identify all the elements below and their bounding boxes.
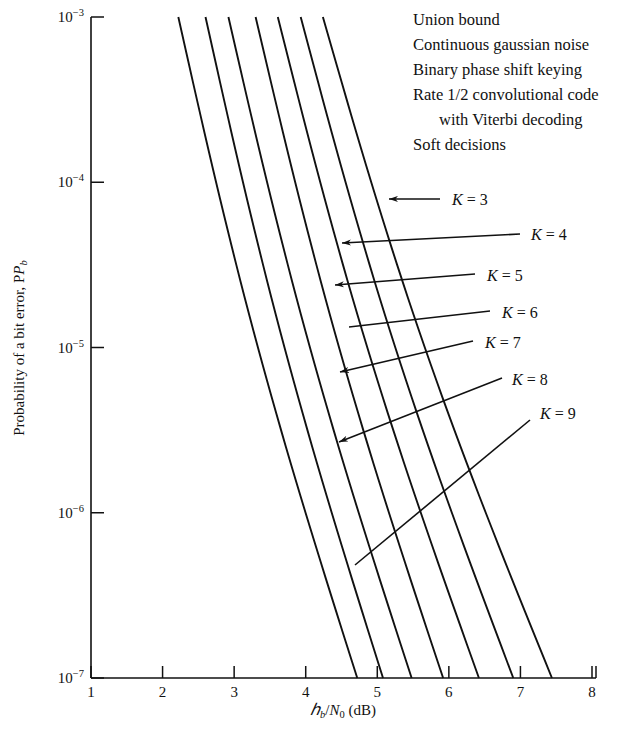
note-line-2: Continuous gaussian noise bbox=[413, 35, 589, 54]
x-tick-label: 3 bbox=[230, 684, 238, 700]
note-line-6: Soft decisions bbox=[413, 135, 506, 154]
leader-line-8 bbox=[339, 378, 502, 442]
svg-text:ℎb/N0 (dB): ℎb/N0 (dB) bbox=[310, 701, 376, 720]
y-tick-label: 10−7 bbox=[58, 668, 84, 686]
k-label-5: K = 5 bbox=[486, 267, 523, 284]
curve-k4 bbox=[206, 17, 384, 678]
y-axis-title-text: Probability of a bit error, P bbox=[11, 275, 27, 436]
note-line-4: Rate 1/2 convolutional code bbox=[413, 85, 599, 104]
y-tick-label-group: 10−310−410−510−610−7 bbox=[58, 7, 85, 686]
note-line-3: Binary phase shift keying bbox=[413, 60, 582, 79]
y-axis-title-sub: b bbox=[18, 260, 29, 265]
curve-k5 bbox=[228, 17, 411, 678]
leader-line-7 bbox=[340, 341, 473, 372]
k-label-group: K = 3K = 4K = 5K = 6K = 7K = 8K = 9 bbox=[451, 191, 576, 422]
y-tick-label: 10−5 bbox=[58, 338, 84, 356]
note-line-5: with Viterbi decoding bbox=[439, 110, 583, 129]
svg-text:Probability of a bit error, PP: Probability of a bit error, PPb bbox=[11, 260, 29, 435]
x-axis-title: ℎb/N0 (dB) bbox=[310, 701, 376, 720]
k-label-6: K = 6 bbox=[501, 304, 538, 321]
x-tick-label: 4 bbox=[302, 684, 310, 700]
y-axis-title: Probability of a bit error, PPb bbox=[11, 260, 29, 435]
curve-k3 bbox=[178, 17, 357, 678]
leader-line-5 bbox=[335, 274, 475, 285]
leader-line-4 bbox=[342, 234, 520, 243]
k-label-3: K = 3 bbox=[451, 191, 488, 208]
leader-line-6 bbox=[349, 311, 490, 327]
chart-figure: 10−310−410−510−610−7 12345678 K = 3K = 4… bbox=[0, 0, 623, 729]
k-label-4: K = 4 bbox=[530, 226, 567, 243]
y-tick-label: 10−4 bbox=[58, 172, 85, 190]
y-tick-group bbox=[91, 17, 104, 678]
k-label-7: K = 7 bbox=[484, 334, 521, 351]
x-tick-label: 1 bbox=[87, 684, 95, 700]
k-label-9: K = 9 bbox=[539, 405, 576, 422]
x-tick-label: 8 bbox=[588, 684, 596, 700]
chart-canvas: 10−310−410−510−610−7 12345678 K = 3K = 4… bbox=[0, 0, 623, 729]
x-tick-label: 2 bbox=[159, 684, 167, 700]
x-tick-group bbox=[91, 666, 596, 678]
k-label-8: K = 8 bbox=[511, 371, 548, 388]
y-tick-label: 10−6 bbox=[58, 503, 84, 521]
note-line-1: Union bound bbox=[413, 10, 500, 29]
y-tick-label: 10−3 bbox=[58, 7, 84, 25]
notes-block: Union boundContinuous gaussian noiseBina… bbox=[413, 10, 599, 154]
x-tick-label-group: 12345678 bbox=[87, 684, 596, 700]
annotation-leader-group bbox=[335, 199, 530, 565]
x-tick-label: 5 bbox=[374, 684, 382, 700]
leader-line-9 bbox=[355, 420, 530, 565]
x-tick-label: 6 bbox=[445, 684, 453, 700]
x-tick-label: 7 bbox=[517, 684, 525, 700]
